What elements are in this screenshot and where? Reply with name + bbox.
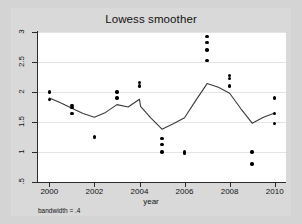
x-axis-title: year (0, 197, 302, 206)
scatter-point (273, 96, 276, 99)
scatter-point (273, 112, 276, 115)
plot-area (38, 32, 286, 182)
x-axis-line (37, 182, 286, 183)
gridline (38, 122, 286, 123)
x-axis-tick-label: 2008 (213, 187, 247, 196)
y-axis-tick (32, 32, 37, 33)
x-axis-tick-label: 2010 (258, 187, 292, 196)
scatter-point (48, 98, 51, 101)
x-axis-tick-label: 2000 (32, 187, 66, 196)
y-axis-tick-label: 1 (17, 143, 26, 161)
scatter-point (183, 152, 186, 155)
y-axis-tick-label: 2.5 (17, 53, 26, 71)
scatter-point (205, 48, 208, 51)
y-axis-tick-label: 2 (17, 83, 26, 101)
x-axis-tick-label: 2002 (77, 187, 111, 196)
y-axis-tick (32, 182, 37, 183)
y-axis-tick (32, 92, 37, 93)
scatter-point (160, 137, 163, 140)
gridline (38, 62, 286, 63)
scatter-point (160, 143, 163, 146)
scatter-point (48, 90, 51, 93)
scatter-point (160, 150, 163, 153)
scatter-point (70, 106, 73, 109)
y-axis-tick (32, 122, 37, 123)
lowess-smooth-line (38, 32, 286, 182)
y-axis-tick-label: .5 (17, 173, 26, 191)
gridline (38, 32, 286, 33)
scatter-point (250, 162, 253, 165)
scatter-point (273, 122, 276, 125)
x-axis-tick-label: 2006 (168, 187, 202, 196)
scatter-point (115, 90, 118, 93)
scatter-point (205, 35, 208, 38)
scatter-point (70, 112, 73, 115)
x-axis-tick-label: 2004 (123, 187, 157, 196)
scatter-point (205, 41, 208, 44)
chart-title: Lowess smoother (0, 13, 302, 25)
scatter-point (115, 96, 118, 99)
gridline (38, 92, 286, 93)
scatter-point (228, 77, 231, 80)
scatter-point (93, 136, 96, 139)
y-axis-tick (32, 62, 37, 63)
y-axis-line (37, 31, 38, 183)
lowess-scatter-chart: Lowess smoother .511.522.53 200020022004… (0, 0, 302, 224)
bandwidth-annotation: bandwidth = .4 (38, 207, 80, 214)
scatter-point (250, 150, 253, 153)
scatter-point (138, 84, 141, 87)
y-axis-tick-label: 1.5 (17, 113, 26, 131)
y-axis-tick-label: 3 (17, 23, 26, 41)
scatter-point (228, 84, 231, 87)
y-axis-tick (32, 152, 37, 153)
